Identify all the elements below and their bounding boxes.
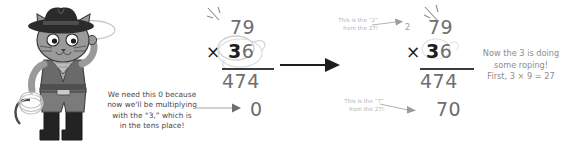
worksheet-canvas: We need this 0 because now we'll be mult… bbox=[0, 0, 582, 144]
caption-left: We need this 0 because now we'll be mult… bbox=[96, 90, 208, 132]
problem1-multiplier-ones: 6 bbox=[242, 40, 255, 62]
annotation-carry-two-line-2: from the 27! bbox=[322, 25, 378, 33]
sparkle-icon bbox=[204, 4, 226, 24]
problem1-partial-product-1: 474 bbox=[222, 70, 260, 92]
problem2-multiplier-ones: 6 bbox=[440, 40, 453, 62]
caption-left-line-2: now we'll be multiplying bbox=[96, 100, 208, 110]
problem2-partial-product-2: 70 bbox=[436, 98, 461, 120]
problem2-multiplicand: 79 bbox=[428, 16, 453, 38]
problem1-partial-product-2: 0 bbox=[250, 98, 263, 120]
caption-left-line-4: in the tens place! bbox=[96, 121, 208, 131]
problem2-multiplier-tens: 3 bbox=[426, 40, 440, 62]
progression-arrow bbox=[280, 56, 342, 74]
cat-boots bbox=[40, 108, 82, 140]
caption-right: Now the 3 is doing some roping! First, 3… bbox=[462, 48, 580, 83]
problem2-multiplier: 36 bbox=[426, 40, 452, 62]
caption-right-line-3: First, 3 × 9 = 27 bbox=[462, 71, 580, 83]
annotation-digit-seven: This is the “7” from the 27! bbox=[328, 98, 384, 113]
problem2-partial-product-1: 474 bbox=[420, 70, 458, 92]
problem1-multiplier-tens: 3 bbox=[228, 40, 242, 62]
caption-left-line-1: We need this 0 because bbox=[96, 90, 208, 100]
problem2-carry: 2 bbox=[405, 23, 410, 32]
math-problem-before: 79 × 36 474 0 bbox=[200, 8, 290, 128]
problem1-multiplier: 36 bbox=[228, 40, 254, 62]
annotation-carry-two: This is the “2” from the 27! bbox=[322, 17, 378, 32]
caption-left-line-3: with the “3,” which is bbox=[96, 111, 208, 121]
caption-right-line-1: Now the 3 is doing bbox=[462, 48, 580, 60]
annotation-digit-seven-line-1: This is the “7” bbox=[328, 98, 384, 106]
annotation-digit-seven-line-2: from the 27! bbox=[328, 106, 384, 114]
annotation-carry-two-line-1: This is the “2” bbox=[322, 17, 378, 25]
coiled-rope-icon bbox=[19, 92, 43, 114]
caption-right-line-2: some roping! bbox=[462, 60, 580, 72]
